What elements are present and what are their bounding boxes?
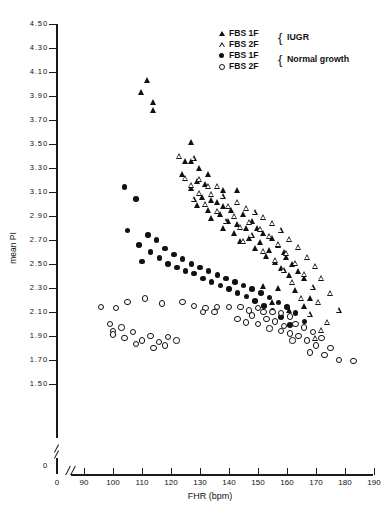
point-open-circle	[243, 319, 249, 325]
y-axis-tick	[49, 48, 57, 49]
y-axis-tick-label: 3.70	[8, 116, 48, 124]
y-axis-zero-stub	[56, 458, 58, 474]
point-open-circle	[272, 318, 278, 324]
x-axis-tick-label: 140	[216, 479, 242, 487]
x-axis-tick	[171, 468, 172, 475]
point-open-circle	[249, 312, 255, 318]
point-open-circle	[234, 316, 240, 322]
point-filled-circle	[284, 304, 290, 310]
filled-circle-icon	[219, 53, 224, 58]
point-open-triangle	[260, 248, 266, 254]
x-axis-line	[71, 474, 373, 476]
point-filled-circle	[232, 279, 238, 285]
point-open-triangle	[196, 190, 202, 196]
point-open-triangle	[249, 232, 255, 238]
point-open-triangle	[205, 183, 211, 189]
point-open-circle	[165, 334, 171, 340]
point-open-triangle	[191, 155, 197, 161]
point-filled-circle	[183, 268, 189, 274]
point-filled-circle	[154, 237, 160, 243]
point-filled-triangle	[275, 285, 281, 291]
point-open-triangle	[301, 271, 307, 277]
point-open-circle	[118, 324, 124, 330]
point-open-circle	[266, 325, 272, 331]
point-open-circle	[260, 309, 266, 315]
point-open-triangle	[214, 208, 220, 214]
y-axis-tick-label: 2.50	[8, 260, 48, 268]
point-open-triangle	[246, 219, 252, 225]
point-open-triangle	[223, 218, 229, 224]
x-axis-tick	[345, 468, 346, 475]
point-filled-circle	[241, 283, 247, 289]
point-open-triangle	[289, 279, 295, 285]
point-filled-triangle	[196, 165, 202, 171]
point-open-circle	[107, 321, 113, 327]
point-filled-triangle	[257, 239, 263, 245]
point-filled-circle	[189, 261, 195, 267]
point-open-circle	[191, 303, 197, 309]
y-axis-tick	[49, 24, 57, 25]
point-open-triangle	[275, 241, 281, 247]
x-axis-tick	[84, 468, 85, 475]
point-open-circle	[289, 337, 295, 343]
x-axis-tick-label: 110	[129, 479, 155, 487]
point-filled-triangle	[240, 211, 246, 217]
point-filled-triangle	[205, 207, 211, 213]
point-open-triangle	[240, 238, 246, 244]
point-filled-circle	[258, 290, 264, 296]
point-open-circle	[147, 333, 153, 339]
y-axis-tick-label: 2.30	[8, 284, 48, 292]
point-open-circle	[159, 300, 165, 306]
point-open-circle	[179, 299, 185, 305]
point-open-circle	[327, 345, 333, 351]
point-filled-circle	[191, 271, 197, 277]
x-axis-tick-label: 180	[332, 479, 358, 487]
point-filled-circle	[249, 286, 255, 292]
y-axis-tick	[49, 72, 57, 73]
x-axis-tick	[142, 468, 143, 475]
point-open-circle	[211, 309, 217, 315]
point-open-circle	[292, 321, 298, 327]
point-open-circle	[269, 309, 275, 315]
point-open-circle	[313, 342, 319, 348]
y-axis-tick-label: 2.90	[8, 212, 48, 220]
point-filled-triangle	[150, 99, 156, 105]
point-filled-triangle	[205, 171, 211, 177]
point-filled-triangle	[252, 245, 258, 251]
y-axis-tick	[49, 168, 57, 169]
legend-group-label: IUGR	[287, 32, 309, 43]
y-axis-tick	[49, 96, 57, 97]
y-axis-tick	[49, 192, 57, 193]
point-open-circle	[304, 337, 310, 343]
point-open-circle	[133, 341, 139, 347]
point-filled-triangle	[234, 187, 240, 193]
point-open-circle	[139, 337, 145, 343]
filled-triangle-icon	[219, 31, 225, 36]
point-open-triangle	[324, 319, 330, 325]
point-open-circle	[124, 299, 130, 305]
point-open-triangle	[214, 183, 220, 189]
point-open-triangle	[266, 233, 272, 239]
y-axis-tick	[49, 360, 57, 361]
scatter-plot: mean PI FHR (bpm) 01.501.701.902.102.302…	[0, 0, 382, 510]
point-open-triangle	[182, 175, 188, 181]
point-filled-circle	[139, 259, 145, 265]
point-open-circle	[295, 333, 301, 339]
point-open-circle	[336, 357, 342, 363]
point-filled-circle	[215, 272, 221, 278]
y-axis-tick-label: 1.90	[8, 332, 48, 340]
point-open-triangle	[318, 275, 324, 281]
point-open-triangle	[243, 205, 249, 211]
point-filled-circle	[162, 246, 168, 252]
point-open-triangle	[257, 226, 263, 232]
point-filled-circle	[218, 283, 224, 289]
point-open-triangle	[188, 182, 194, 188]
point-open-triangle	[191, 196, 197, 202]
x-axis-tick-label: 120	[158, 479, 184, 487]
point-open-circle	[130, 329, 136, 335]
point-filled-circle	[261, 303, 267, 309]
point-open-triangle	[286, 236, 292, 242]
y-axis-tick-label: 3.50	[8, 140, 48, 148]
x-axis-tick-label: 0	[44, 479, 70, 487]
y-axis-tick	[49, 312, 57, 313]
